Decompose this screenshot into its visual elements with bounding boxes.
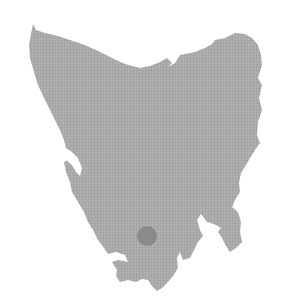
tasmania-landmass	[29, 24, 262, 291]
map-canvas[interactable]	[0, 0, 284, 303]
location-marker[interactable]	[137, 226, 157, 246]
